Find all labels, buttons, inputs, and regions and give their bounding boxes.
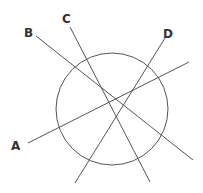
label-d: D	[163, 27, 173, 41]
label-c: C	[62, 12, 71, 26]
label-b: B	[24, 26, 33, 40]
line-b	[36, 36, 193, 160]
label-a: A	[11, 139, 21, 153]
line-c	[70, 27, 150, 182]
line-d	[75, 38, 165, 183]
geometry-diagram: ABCD	[0, 0, 203, 193]
